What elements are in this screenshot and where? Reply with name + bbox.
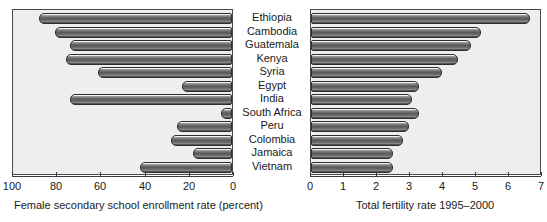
bar-row	[13, 54, 232, 65]
bar-row	[13, 108, 232, 119]
bar-india	[70, 94, 232, 105]
axis-tick-label: 5	[455, 180, 495, 192]
category-label-jamaica: Jamaica	[235, 147, 309, 158]
axis-tick-label: 1	[323, 180, 363, 192]
axis-tick-label: 2	[356, 180, 396, 192]
axis-tick-label: 60	[80, 180, 120, 192]
bar-row	[311, 121, 540, 132]
bar-row	[311, 94, 540, 105]
category-labels: EthiopiaCambodiaGuatemalaKenyaSyriaEgypt…	[235, 9, 309, 175]
bar-kenya	[311, 54, 458, 65]
axis-tick-label: 80	[36, 180, 76, 192]
axis-tick	[233, 172, 234, 176]
bar-syria	[311, 67, 442, 78]
category-label-india: India	[235, 93, 309, 104]
bar-ethiopia	[39, 13, 232, 24]
category-label-south-africa: South Africa	[235, 107, 309, 118]
bar-row	[311, 148, 540, 159]
bar-row	[311, 13, 540, 24]
plot-area-right	[311, 10, 540, 174]
axis-tick-label: 3	[389, 180, 429, 192]
bar-egypt	[182, 81, 232, 92]
bar-vietnam	[311, 162, 393, 173]
bar-row	[311, 81, 540, 92]
bar-colombia	[311, 135, 403, 146]
axis-line	[310, 176, 541, 177]
axis-tick-label: 20	[169, 180, 209, 192]
bar-cambodia	[311, 27, 481, 38]
x-axis-title-right: Total fertility rate 1995–2000	[356, 199, 494, 212]
bar-row	[13, 81, 232, 92]
bar-guatemala	[70, 40, 232, 51]
category-label-vietnam: Vietnam	[235, 161, 309, 172]
axis-line	[12, 176, 233, 177]
bar-peru	[177, 121, 232, 132]
bar-row	[13, 121, 232, 132]
bar-row	[13, 40, 232, 51]
bar-row	[311, 135, 540, 146]
bar-row	[311, 40, 540, 51]
bar-row	[13, 27, 232, 38]
panel-total-fertility-rate	[310, 9, 541, 175]
bar-row	[311, 162, 540, 173]
bar-egypt	[311, 81, 419, 92]
axis-tick-label: 6	[488, 180, 528, 192]
bar-ethiopia	[311, 13, 530, 24]
category-label-peru: Peru	[235, 120, 309, 131]
bar-row	[13, 148, 232, 159]
category-label-guatemala: Guatemala	[235, 39, 309, 50]
category-label-colombia: Colombia	[235, 134, 309, 145]
bar-kenya	[66, 54, 232, 65]
bar-row	[13, 94, 232, 105]
axis-tick-label: 4	[422, 180, 462, 192]
bar-india	[311, 94, 412, 105]
category-label-cambodia: Cambodia	[235, 26, 309, 37]
bar-row	[311, 54, 540, 65]
paired-bar-chart-figure: 100806040200 Female secondary school enr…	[0, 0, 547, 222]
bar-row	[311, 108, 540, 119]
bar-jamaica	[311, 148, 393, 159]
axis-tick-label: 7	[521, 180, 547, 192]
bar-south-africa	[311, 108, 419, 119]
bar-row	[13, 67, 232, 78]
bar-row	[13, 135, 232, 146]
bar-row	[311, 67, 540, 78]
axis-tick	[541, 172, 542, 176]
axis-tick-label: 0	[213, 180, 253, 192]
category-label-syria: Syria	[235, 66, 309, 77]
x-axis-title-left: Female secondary school enrollment rate …	[14, 199, 263, 212]
category-label-ethiopia: Ethiopia	[235, 12, 309, 23]
plot-area-left	[13, 10, 232, 174]
category-label-kenya: Kenya	[235, 53, 309, 64]
bar-vietnam	[140, 162, 232, 173]
axis-tick-label: 40	[125, 180, 165, 192]
axis-tick-label: 0	[290, 180, 330, 192]
category-label-egypt: Egypt	[235, 80, 309, 91]
bar-jamaica	[193, 148, 232, 159]
bar-peru	[311, 121, 409, 132]
panel-female-enrollment	[12, 9, 233, 175]
bar-syria	[98, 67, 232, 78]
bar-south-africa	[221, 108, 232, 119]
bar-row	[13, 13, 232, 24]
axis-tick-label: 100	[0, 180, 32, 192]
bar-row	[13, 162, 232, 173]
bar-row	[311, 27, 540, 38]
bar-colombia	[171, 135, 232, 146]
bar-guatemala	[311, 40, 471, 51]
bar-cambodia	[55, 27, 232, 38]
